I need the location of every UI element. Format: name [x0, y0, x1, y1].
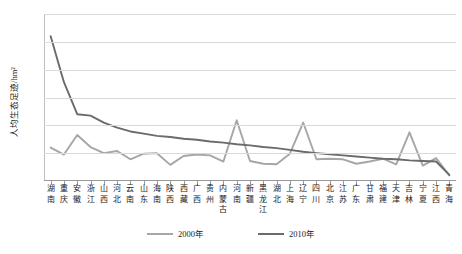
x-tick-label: 甘肃 — [363, 184, 377, 205]
legend-swatch-icon — [147, 233, 173, 235]
x-tick-label: 湖南 — [44, 184, 58, 205]
gridline — [44, 153, 456, 154]
legend-swatch-icon — [258, 233, 284, 235]
gridline — [44, 125, 456, 126]
x-tick-label: 天津 — [389, 184, 403, 205]
x-tick-label: 四川 — [309, 184, 323, 205]
gridline — [44, 70, 456, 71]
x-tick-label: 贵州 — [203, 184, 217, 205]
series-line — [51, 120, 450, 175]
x-tick-label: 西藏 — [177, 184, 191, 205]
gridline — [44, 14, 456, 15]
x-tick-label: 海南 — [150, 184, 164, 205]
x-tick-label: 浙江 — [84, 184, 98, 205]
x-tick-label: 江苏 — [336, 184, 350, 205]
x-tick-label: 广东 — [349, 184, 363, 205]
x-axis-tick-labels: 湖南重庆安徽浙江山西河北云南山东海南陕西西藏广西贵州内蒙古河南新疆黑龙江湖北上海… — [44, 184, 456, 230]
x-tick-label: 青海 — [442, 184, 456, 205]
gridline — [44, 42, 456, 43]
x-tick-label: 山东 — [137, 184, 151, 205]
x-tick-label: 福建 — [376, 184, 390, 205]
x-tick-label: 山西 — [97, 184, 111, 205]
x-tick-label: 黑龙江 — [256, 184, 270, 216]
x-tick-label: 河南 — [230, 184, 244, 205]
x-tick-label: 宁夏 — [416, 184, 430, 205]
gridline — [44, 98, 456, 99]
x-tick-label: 重庆 — [57, 184, 71, 205]
legend-label: 2000年 — [178, 230, 204, 239]
x-tick-label: 广西 — [190, 184, 204, 205]
chart-legend: 2000年2010年 — [0, 230, 462, 239]
legend-item[interactable]: 2000年 — [147, 230, 204, 239]
legend-item[interactable]: 2010年 — [258, 230, 315, 239]
x-tick-label: 内蒙古 — [216, 184, 230, 216]
ecological-footprint-line-chart: 人均生态足迹/hm² 0.01.02.03.04.05.06.0 湖南重庆安徽浙… — [0, 0, 462, 254]
x-tick-label: 吉林 — [402, 184, 416, 205]
x-tick-label: 陕西 — [163, 184, 177, 205]
x-tick-label: 上海 — [283, 184, 297, 205]
legend-label: 2010年 — [289, 230, 315, 239]
x-tick-label: 新疆 — [243, 184, 257, 205]
x-tick-label: 辽宁 — [296, 184, 310, 205]
x-tick-label: 江西 — [429, 184, 443, 205]
x-tick-label: 安徽 — [70, 184, 84, 205]
x-tick-label: 湖北 — [270, 184, 284, 205]
plot-area — [44, 14, 456, 181]
x-tick-label: 云南 — [123, 184, 137, 205]
x-tick-label: 北京 — [323, 184, 337, 205]
x-tick-label: 河北 — [110, 184, 124, 205]
